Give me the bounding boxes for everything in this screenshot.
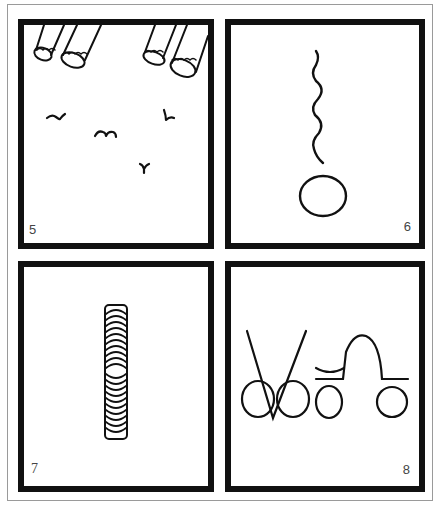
panel-number: 6 — [404, 220, 411, 233]
curve-mark — [316, 368, 344, 372]
panel-5: 5 — [18, 19, 214, 249]
panel-5-illustration — [24, 25, 208, 243]
cylinder-icon — [32, 25, 64, 63]
bird-icon — [164, 110, 174, 120]
panel-number: 5 — [29, 223, 36, 236]
bird-icon — [47, 114, 65, 119]
cylinder-icon — [142, 25, 176, 67]
circle-shape — [277, 381, 309, 417]
circle-shape — [316, 386, 342, 418]
panel-8-illustration — [231, 267, 419, 486]
cylinder-icon — [59, 25, 101, 71]
v-lines — [247, 331, 306, 418]
coil-arcs — [106, 310, 126, 432]
panel-number: 7 — [31, 462, 38, 476]
arch — [343, 335, 408, 379]
circle-shape — [242, 381, 274, 417]
bird-icon — [140, 164, 149, 173]
circle-shape — [377, 387, 407, 417]
circle-shape — [300, 176, 346, 216]
bird-icon — [95, 132, 116, 138]
wavy-line — [313, 51, 323, 163]
panel-number: 8 — [403, 463, 410, 476]
panel-6-illustration — [231, 25, 419, 243]
cylinder-icon — [168, 25, 208, 80]
panel-6: 6 — [225, 19, 425, 249]
panel-8: 8 — [225, 261, 425, 492]
panel-7-illustration — [24, 267, 208, 486]
panel-7: 7 — [18, 261, 214, 492]
